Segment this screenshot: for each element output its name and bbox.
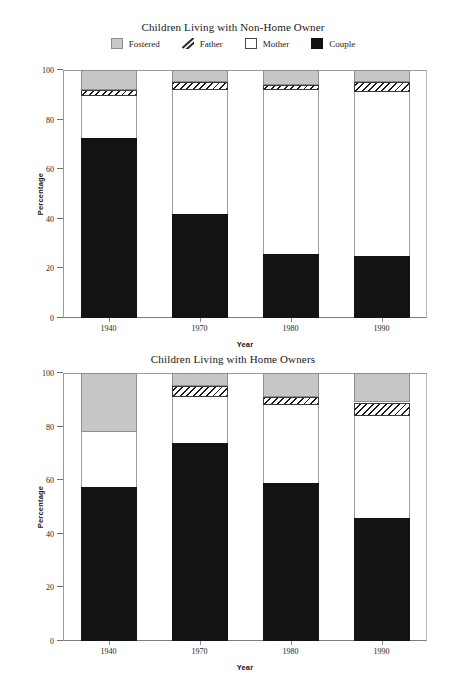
bar-segment-fostered[interactable] <box>354 373 410 402</box>
x-tick-label: 1970 <box>192 324 208 333</box>
bar-group[interactable]: 1940 <box>81 70 137 318</box>
x-tick-label: 1990 <box>374 647 390 656</box>
bar-segment-fostered[interactable] <box>263 373 319 397</box>
father-swatch-icon <box>182 38 194 49</box>
bar-stack[interactable]: 1940 <box>81 373 137 641</box>
y-tick-label: 40 <box>46 529 54 538</box>
y-tick-label: 20 <box>46 583 54 592</box>
y-tick-label: 80 <box>46 422 54 431</box>
y-tick-label: 60 <box>46 476 54 485</box>
bar-segment-father[interactable] <box>354 403 410 416</box>
bar-segment-fostered[interactable] <box>81 373 137 432</box>
legend-item-mother: Mother <box>245 38 290 49</box>
legend-item-father: Father <box>182 38 223 49</box>
bar-segment-father[interactable] <box>172 386 228 397</box>
bar-group[interactable]: 1980 <box>263 70 319 318</box>
bar-segment-father[interactable] <box>263 85 319 90</box>
bar-segment-fostered[interactable] <box>263 70 319 85</box>
bar-segment-mother[interactable] <box>354 416 410 518</box>
bar-stack[interactable]: 1980 <box>263 70 319 318</box>
bar-segment-couple[interactable] <box>263 483 319 641</box>
y-tick-label: 0 <box>50 637 54 646</box>
y-tick-label: 60 <box>46 165 54 174</box>
x-axis-title-2: Year <box>63 663 427 672</box>
bar-segment-mother[interactable] <box>172 397 228 443</box>
x-tick-label: 1980 <box>283 324 299 333</box>
bar-segment-mother[interactable] <box>263 90 319 254</box>
hatch-pattern-icon <box>264 86 318 89</box>
couple-swatch-icon <box>311 38 323 49</box>
x-tick <box>291 318 292 322</box>
bar-segment-mother[interactable] <box>354 92 410 256</box>
x-tick <box>200 641 201 645</box>
bar-segment-couple[interactable] <box>172 443 228 641</box>
hatch-pattern-icon <box>82 91 136 95</box>
hatch-pattern-icon <box>355 83 409 91</box>
bar-segment-couple[interactable] <box>354 518 410 641</box>
legend-label-father: Father <box>200 39 223 49</box>
bar-segment-couple[interactable] <box>263 254 319 318</box>
chart-page: Children Living with Non-Home Owner Fost… <box>0 0 466 685</box>
x-tick-label: 1980 <box>283 647 299 656</box>
legend-label-couple: Couple <box>329 39 355 49</box>
bar-stack[interactable]: 1970 <box>172 373 228 641</box>
y-tick-label: 80 <box>46 115 54 124</box>
mother-swatch-icon <box>245 38 257 49</box>
plot-area-2: Percentage Year 020406080100 19401970198… <box>63 373 427 641</box>
x-tick-label: 1940 <box>101 324 117 333</box>
bar-group[interactable]: 1940 <box>81 373 137 641</box>
x-tick <box>109 318 110 322</box>
chart-title-1: Children Living with Non-Home Owner <box>0 21 466 33</box>
chart-legend: Fostered Father Mother Couple <box>0 38 466 49</box>
bar-segment-couple[interactable] <box>81 138 137 318</box>
chart-panel-home-owners: Children Living with Home Owners Percent… <box>0 345 466 685</box>
legend-item-couple: Couple <box>311 38 355 49</box>
x-tick <box>109 641 110 645</box>
y-tick-label: 0 <box>50 314 54 323</box>
bar-segment-mother[interactable] <box>172 90 228 214</box>
bar-segment-fostered[interactable] <box>81 70 137 90</box>
bar-stack[interactable]: 1990 <box>354 70 410 318</box>
x-tick <box>382 641 383 645</box>
bar-group[interactable]: 1990 <box>354 373 410 641</box>
bar-segment-fostered[interactable] <box>172 70 228 82</box>
bar-stack[interactable]: 1990 <box>354 373 410 641</box>
bar-segment-couple[interactable] <box>354 256 410 318</box>
y-tick-label: 100 <box>42 369 54 378</box>
bar-segment-father[interactable] <box>263 397 319 405</box>
y-tick-label: 100 <box>42 66 54 75</box>
x-tick-label: 1990 <box>374 324 390 333</box>
bar-segment-father[interactable] <box>172 82 228 89</box>
bar-group[interactable]: 1970 <box>172 70 228 318</box>
bar-segment-mother[interactable] <box>81 96 137 138</box>
bars-container-1: 1940197019801990 <box>63 70 427 318</box>
bar-segment-mother[interactable] <box>81 432 137 487</box>
bar-segment-couple[interactable] <box>172 214 228 318</box>
y-axis-title-1: Percentage <box>36 173 45 215</box>
bar-segment-father[interactable] <box>81 90 137 96</box>
bar-segment-fostered[interactable] <box>172 373 228 386</box>
plot-area-1: Percentage Year 020406080100 19401970198… <box>63 70 427 318</box>
hatch-pattern-icon <box>173 83 227 88</box>
x-tick <box>291 641 292 645</box>
bar-group[interactable]: 1990 <box>354 70 410 318</box>
bars-container-2: 1940197019801990 <box>63 373 427 641</box>
bar-group[interactable]: 1980 <box>263 373 319 641</box>
bar-stack[interactable]: 1980 <box>263 373 319 641</box>
bar-group[interactable]: 1970 <box>172 373 228 641</box>
hatch-pattern-icon <box>264 398 318 404</box>
legend-label-mother: Mother <box>263 39 290 49</box>
fostered-swatch-icon <box>111 38 123 49</box>
y-tick-label: 40 <box>46 214 54 223</box>
chart-panel-non-home-owner: Children Living with Non-Home Owner Fost… <box>0 0 466 345</box>
bar-segment-father[interactable] <box>354 82 410 92</box>
bar-segment-mother[interactable] <box>263 405 319 483</box>
bar-stack[interactable]: 1940 <box>81 70 137 318</box>
hatch-pattern-icon <box>355 404 409 415</box>
x-tick-label: 1970 <box>192 647 208 656</box>
bar-segment-fostered[interactable] <box>354 70 410 82</box>
hatch-pattern-icon <box>173 387 227 396</box>
bar-stack[interactable]: 1970 <box>172 70 228 318</box>
x-tick <box>200 318 201 322</box>
bar-segment-couple[interactable] <box>81 487 137 641</box>
